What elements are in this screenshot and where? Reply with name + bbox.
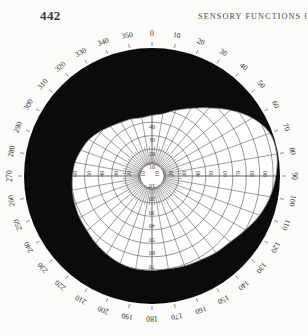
page-number: 442 [40,8,61,24]
angle-tick-label: 40 [238,61,250,73]
angle-tick-label: 100 [287,194,298,207]
polar-visual-field-plot: 1020304050607080901020304050601020304010… [0,26,308,335]
angle-tick-label: 130 [254,261,268,276]
radial-tick-label: 50 [86,171,92,177]
perimetry-chart: 1020304050607080901020304050601020304010… [0,26,308,335]
radial-tick-label: 40 [149,124,155,130]
radial-tick-label: 30 [149,210,155,216]
angle-tick-label: 260 [6,194,17,207]
radial-tick-label: 40 [99,171,105,177]
angle-tick-label: 80 [288,147,298,156]
angle-tick-label: 140 [236,278,251,292]
radial-tick-label: 40 [195,171,201,177]
angle-tick-label: 240 [21,240,35,255]
angle-tick-label: 320 [53,59,68,73]
angle-tick-label: 280 [6,145,17,158]
angle-tick-label: 180 [146,314,158,323]
angle-tick-label: 210 [73,293,88,307]
radial-tick-label: 40 [149,223,155,229]
radial-tick-label: 10 [154,171,160,177]
angle-tick-label: 310 [35,77,49,92]
radial-tick-label: 60 [149,250,155,256]
angle-tick-label: 120 [269,240,283,255]
radial-tick-label: 20 [168,171,174,177]
angle-tick-label: 70 [281,122,292,132]
radial-tick-label: 10 [149,183,155,189]
angle-tick-label: 170 [170,311,183,322]
angle-tick-label: 30 [218,46,229,58]
radial-tick-label: 10 [140,171,146,177]
angle-tick-label: 20 [196,36,206,47]
angle-tick-label: 0 [150,29,154,38]
angle-tick-label: 60 [270,99,282,110]
angle-tick-label: 50 [256,78,268,90]
radial-tick-label: 30 [149,137,155,143]
radial-tick-label: 20 [149,151,155,157]
angle-tick-label: 230 [35,260,49,275]
page-header: 442 SENSORY FUNCTIONS OF [0,6,308,26]
angle-tick-label: 350 [121,30,134,41]
angle-tick-label: 300 [22,97,36,112]
running-head: SENSORY FUNCTIONS OF [198,12,308,21]
angle-tick-label: 200 [96,304,110,316]
angle-tick-label: 150 [216,293,231,307]
angle-tick-label: 190 [121,311,134,322]
radial-tick-label: 70 [235,171,241,177]
radial-tick-label: 90 [262,171,268,177]
angle-tick-label: 330 [73,45,88,59]
angle-tick-label: 110 [280,218,292,232]
angle-tick-label: 90 [290,172,299,180]
angle-tick-label: 250 [11,218,23,232]
radial-tick-label: 50 [149,237,155,243]
radial-tick-label: 80 [249,171,255,177]
radial-tick-label: 10 [149,164,155,170]
radial-tick-label: 60 [72,171,78,177]
angle-tick-label: 340 [96,35,110,47]
radial-tick-label: 60 [222,171,228,177]
radial-tick-label: 20 [126,171,132,177]
angle-tick-label: 270 [5,170,14,182]
radial-tick-label: 50 [208,171,214,177]
radial-tick-label: 30 [113,171,119,177]
radial-tick-label: 20 [149,196,155,202]
book-page: 442 SENSORY FUNCTIONS OF 102030405060708… [0,0,308,335]
angle-tick-label: 290 [12,120,24,134]
angle-tick-label: 160 [194,304,208,316]
angle-tick-label: 10 [172,30,181,40]
radial-tick-label: 70 [149,264,155,270]
angle-tick-label: 220 [53,278,68,292]
radial-tick-label: 30 [181,171,187,177]
